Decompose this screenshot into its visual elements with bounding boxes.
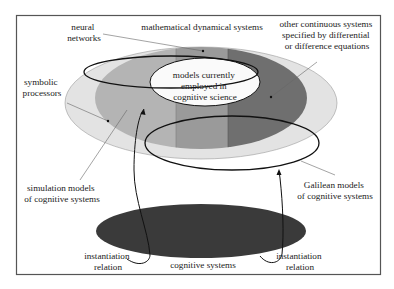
label-cognitive-systems: cognitive systems (170, 260, 236, 270)
label-simulation-models: simulation models of cognitive systems (24, 183, 100, 204)
label-mathematical-dynamical-systems: mathematical dynamical systems (141, 22, 263, 32)
diagram-canvas: neural networks mathematical dynamical s… (0, 0, 394, 289)
cognitive-systems-ellipse (96, 204, 306, 258)
label-other-continuous-systems: other continuous systems specified by di… (279, 19, 374, 51)
label-symbolic-processors: symbolic processors (23, 77, 62, 98)
label-neural-networks: neural networks (67, 22, 101, 43)
label-galilean-models: Galilean models of cognitive systems (297, 180, 373, 201)
label-models-currently-employed: models currently employed in cognitive s… (173, 70, 237, 102)
